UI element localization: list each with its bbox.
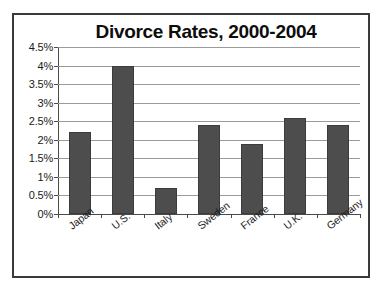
y-tick-label: 1% <box>38 171 54 183</box>
bar-germany <box>327 125 349 214</box>
y-tick-label: 3% <box>38 97 54 109</box>
y-tick-mark <box>54 177 58 178</box>
y-tick-label: 1.5% <box>29 152 53 164</box>
y-tick-label: 3.5% <box>29 78 53 90</box>
chart-frame: Divorce Rates, 2000-2004 0%0.5%1%1.5%2%2… <box>12 13 370 278</box>
bar-japan <box>69 132 91 214</box>
plot-area: 0%0.5%1%1.5%2%2.5%3%3.5%4%4.5% JapanU.S.… <box>58 47 360 214</box>
y-tick-mark <box>54 47 58 48</box>
gridline <box>58 103 360 104</box>
gridline <box>58 84 360 85</box>
x-tick-mark <box>58 214 59 218</box>
y-tick-label: 0.5% <box>29 189 53 201</box>
chart-screenshot: Divorce Rates, 2000-2004 0%0.5%1%1.5%2%2… <box>0 0 383 296</box>
x-tick-mark <box>187 214 188 218</box>
bar-u-k <box>284 118 306 214</box>
y-tick-label: 2% <box>38 134 54 146</box>
x-tick-mark <box>317 214 318 218</box>
y-tick-mark <box>54 158 58 159</box>
y-tick-label: 0% <box>38 208 54 220</box>
x-tick-mark <box>101 214 102 218</box>
x-tick-mark <box>274 214 275 218</box>
y-tick-label: 2.5% <box>29 115 53 127</box>
chart-title: Divorce Rates, 2000-2004 <box>14 21 368 43</box>
y-tick-mark <box>54 140 58 141</box>
bar-sweden <box>198 125 220 214</box>
x-tick-mark <box>231 214 232 218</box>
y-tick-mark <box>54 195 58 196</box>
gridline <box>58 121 360 122</box>
x-tick-mark <box>144 214 145 218</box>
y-tick-label: 4% <box>38 60 54 72</box>
y-tick-mark <box>54 84 58 85</box>
y-tick-mark <box>54 121 58 122</box>
gridline <box>58 66 360 67</box>
y-tick-label: 4.5% <box>29 41 53 53</box>
bar-u-s <box>112 66 134 214</box>
gridline <box>58 47 360 48</box>
y-tick-mark <box>54 66 58 67</box>
x-tick-mark <box>360 214 361 218</box>
y-tick-mark <box>54 103 58 104</box>
